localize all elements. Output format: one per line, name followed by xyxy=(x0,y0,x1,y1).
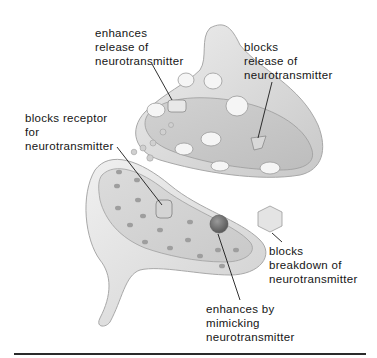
label-enhances-release: enhances release of neurotransmitter xyxy=(95,26,184,68)
label-line: enhances by xyxy=(206,302,295,316)
receptor-block xyxy=(156,200,172,218)
label-line: neurotransmitter xyxy=(269,272,358,286)
label-line: neurotransmitter xyxy=(244,68,333,82)
label-line: neurotransmitter xyxy=(206,330,295,344)
label-line: for xyxy=(25,125,114,139)
bottom-divider xyxy=(14,353,366,355)
label-enhances-mimicking: enhances by mimicking neurotransmitter xyxy=(206,302,295,344)
label-line: neurotransmitter xyxy=(25,139,114,153)
mimic-sphere xyxy=(210,215,228,233)
label-line: breakdown of xyxy=(269,258,358,272)
label-line: enhances xyxy=(95,26,184,40)
label-blocks-breakdown: blocks breakdown of neurotransmitter xyxy=(269,244,358,286)
drug-cube xyxy=(258,206,282,232)
label-blocks-release: blocks release of neurotransmitter xyxy=(244,40,333,82)
label-blocks-receptor: blocks receptor for neurotransmitter xyxy=(25,111,114,153)
label-line: release of xyxy=(95,40,184,54)
label-line: mimicking xyxy=(206,316,295,330)
label-line: neurotransmitter xyxy=(95,54,184,68)
pointer-enhances-release xyxy=(152,64,172,100)
label-line: blocks xyxy=(269,244,358,258)
label-line: release of xyxy=(244,54,333,68)
release-enhancer xyxy=(168,100,186,112)
label-line: blocks receptor xyxy=(25,111,114,125)
pointer-blocks-breakdown xyxy=(272,233,282,242)
label-line: blocks xyxy=(244,40,333,54)
